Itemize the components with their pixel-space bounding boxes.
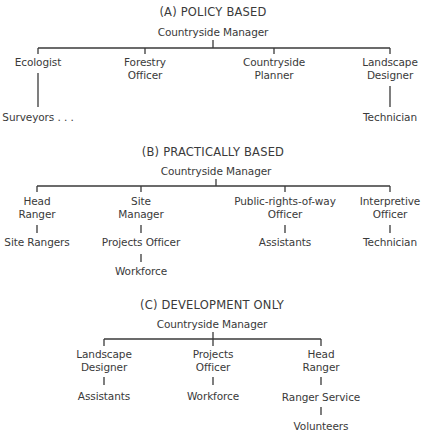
section-c-node-head-ranger-1: Head xyxy=(307,348,334,361)
section-b-node-interpretive-1: Interpretive xyxy=(360,195,420,208)
section-c-node-projects-2: Officer xyxy=(196,361,230,374)
section-c-root: Countryside Manager xyxy=(157,318,268,331)
section-b-node-interpretive-2: Officer xyxy=(373,208,407,221)
section-c-node-projects-1: Projects xyxy=(193,348,234,361)
section-c-node-head-ranger-2: Ranger xyxy=(303,361,340,374)
section-c-sub-ranger-service: Ranger Service xyxy=(282,391,360,404)
section-b-sub-assistants: Assistants xyxy=(259,236,311,249)
section-a-node-landscape-2: Designer xyxy=(367,69,413,82)
section-b-title: (B) PRACTICALLY BASED xyxy=(142,146,284,159)
section-b-node-site-manager-1: Site xyxy=(131,195,151,208)
section-b-sub-technician: Technician xyxy=(363,236,417,249)
section-a-node-planner-2: Planner xyxy=(254,69,293,82)
section-a-node-planner-1: Countryside xyxy=(243,56,305,69)
section-c-sub-workforce: Workforce xyxy=(187,390,239,403)
section-a-node-landscape-1: Landscape xyxy=(362,56,418,69)
section-a-sub-technician: Technician xyxy=(363,111,417,124)
section-a-node-ecologist: Ecologist xyxy=(15,56,61,69)
section-c-title: (C) DEVELOPMENT ONLY xyxy=(140,299,284,312)
section-a-sub-surveyors: Surveyors . . . xyxy=(2,111,73,124)
section-b-node-rights-of-way-2: Officer xyxy=(268,208,302,221)
section-b-node-rights-of-way-1: Public-rights-of-way xyxy=(234,195,336,208)
section-b-node-head-ranger-1: Head xyxy=(23,195,50,208)
section-b-sub-site-rangers: Site Rangers xyxy=(4,236,69,249)
section-a-title: (A) POLICY BASED xyxy=(159,6,266,19)
section-c-sub-volunteers: Volunteers xyxy=(294,420,349,433)
section-c-node-landscape-2: Designer xyxy=(81,361,127,374)
section-a-node-forestry-1: Forestry xyxy=(124,56,166,69)
section-b-root: Countryside Manager xyxy=(161,165,272,178)
section-b-node-site-manager-2: Manager xyxy=(118,208,163,221)
section-a-node-forestry-2: Officer xyxy=(128,69,162,82)
section-c-node-landscape-1: Landscape xyxy=(76,348,132,361)
section-b-node-head-ranger-2: Ranger xyxy=(19,208,56,221)
section-a-root: Countryside Manager xyxy=(158,26,269,39)
section-b-sub-projects-officer: Projects Officer xyxy=(102,236,180,249)
section-c-sub-assistants: Assistants xyxy=(78,390,130,403)
section-b-sub-workforce: Workforce xyxy=(115,265,167,278)
